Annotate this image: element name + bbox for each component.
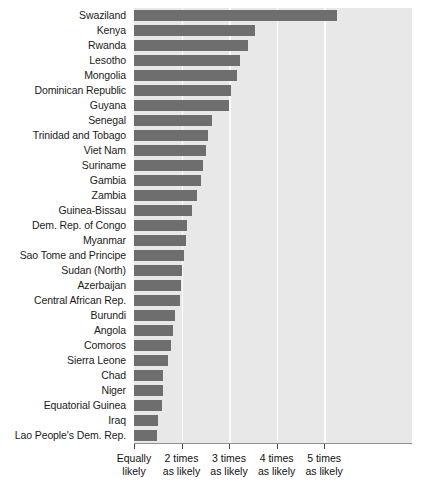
axis-tick-label-line1: 5 times bbox=[287, 452, 361, 465]
x-axis-ticks bbox=[134, 444, 412, 449]
category-label: Sierra Leone bbox=[0, 353, 130, 368]
category-label: Sao Tome and Principe bbox=[0, 248, 130, 263]
bar-row bbox=[134, 248, 412, 263]
category-label: Kenya bbox=[0, 23, 130, 38]
bar-row bbox=[134, 83, 412, 98]
bar-row bbox=[134, 8, 412, 23]
category-label: Comoros bbox=[0, 338, 130, 353]
bar-row bbox=[134, 98, 412, 113]
bar bbox=[134, 25, 255, 36]
category-label: Burundi bbox=[0, 308, 130, 323]
plot-area bbox=[134, 8, 412, 443]
category-label: Trinidad and Tobago bbox=[0, 128, 130, 143]
bar bbox=[134, 400, 162, 411]
bar bbox=[134, 70, 237, 81]
category-label: Angola bbox=[0, 323, 130, 338]
category-label: Mongolia bbox=[0, 68, 130, 83]
bar-row bbox=[134, 278, 412, 293]
axis-tick bbox=[182, 444, 183, 449]
horizontal-bar-chart: SwazilandKenyaRwandaLesothoMongoliaDomin… bbox=[0, 0, 432, 490]
bar bbox=[134, 100, 229, 111]
bar-row bbox=[134, 428, 412, 443]
bar-row bbox=[134, 218, 412, 233]
category-label: Suriname bbox=[0, 158, 130, 173]
bar-row bbox=[134, 293, 412, 308]
bar bbox=[134, 310, 175, 321]
category-label: Dem. Rep. of Congo bbox=[0, 218, 130, 233]
bar-row bbox=[134, 23, 412, 38]
bar bbox=[134, 85, 231, 96]
bar bbox=[134, 220, 187, 231]
bar bbox=[134, 385, 163, 396]
category-label: Myanmar bbox=[0, 233, 130, 248]
category-label: Lesotho bbox=[0, 53, 130, 68]
bar-row bbox=[134, 38, 412, 53]
bar bbox=[134, 160, 203, 171]
bar bbox=[134, 205, 192, 216]
bar-row bbox=[134, 338, 412, 353]
bar-row bbox=[134, 263, 412, 278]
category-label: Azerbaijan bbox=[0, 278, 130, 293]
bar bbox=[134, 415, 158, 426]
axis-tick bbox=[324, 444, 325, 449]
category-label: Senegal bbox=[0, 113, 130, 128]
bar-row bbox=[134, 413, 412, 428]
category-label: Zambia bbox=[0, 188, 130, 203]
bar-row bbox=[134, 233, 412, 248]
bar-row bbox=[134, 173, 412, 188]
bar-row bbox=[134, 323, 412, 338]
category-label: Guyana bbox=[0, 98, 130, 113]
category-label: Niger bbox=[0, 383, 130, 398]
category-label: Lao People's Dem. Rep. bbox=[0, 428, 130, 443]
bar bbox=[134, 40, 248, 51]
category-label: Guinea-Bissau bbox=[0, 203, 130, 218]
bar bbox=[134, 235, 186, 246]
bar bbox=[134, 340, 171, 351]
bar bbox=[134, 10, 337, 21]
category-label: Gambia bbox=[0, 173, 130, 188]
category-label: Equatorial Guinea bbox=[0, 398, 130, 413]
bar bbox=[134, 430, 157, 441]
axis-tick bbox=[277, 444, 278, 449]
category-label: Central African Rep. bbox=[0, 293, 130, 308]
bar-row bbox=[134, 398, 412, 413]
bar bbox=[134, 190, 197, 201]
category-label: Chad bbox=[0, 368, 130, 383]
bar bbox=[134, 145, 206, 156]
bar-row bbox=[134, 158, 412, 173]
bar bbox=[134, 250, 184, 261]
bar bbox=[134, 55, 240, 66]
bar bbox=[134, 280, 181, 291]
bar bbox=[134, 355, 168, 366]
bar-series bbox=[134, 8, 412, 443]
category-label: Swaziland bbox=[0, 8, 130, 23]
axis-tick bbox=[134, 444, 135, 449]
axis-tick bbox=[229, 444, 230, 449]
bar-row bbox=[134, 308, 412, 323]
category-label: Iraq bbox=[0, 413, 130, 428]
bar bbox=[134, 325, 173, 336]
bar-row bbox=[134, 113, 412, 128]
category-label: Rwanda bbox=[0, 38, 130, 53]
category-axis-labels: SwazilandKenyaRwandaLesothoMongoliaDomin… bbox=[0, 8, 130, 443]
bar bbox=[134, 130, 208, 141]
category-label: Dominican Republic bbox=[0, 83, 130, 98]
axis-tick-label: 5 timesas likely bbox=[287, 452, 361, 478]
category-label: Sudan (North) bbox=[0, 263, 130, 278]
bar bbox=[134, 115, 212, 126]
bar-row bbox=[134, 143, 412, 158]
bar-row bbox=[134, 188, 412, 203]
bar bbox=[134, 265, 182, 276]
bar-row bbox=[134, 383, 412, 398]
bar bbox=[134, 295, 180, 306]
bar-row bbox=[134, 128, 412, 143]
category-label: Viet Nam bbox=[0, 143, 130, 158]
bar-row bbox=[134, 203, 412, 218]
bar bbox=[134, 175, 201, 186]
bar-row bbox=[134, 68, 412, 83]
bar-row bbox=[134, 368, 412, 383]
axis-tick-label-line2: as likely bbox=[287, 465, 361, 478]
bar-row bbox=[134, 53, 412, 68]
x-axis-tick-labels: Equallylikely2 timesas likely3 timesas l… bbox=[0, 452, 432, 484]
bar bbox=[134, 370, 163, 381]
